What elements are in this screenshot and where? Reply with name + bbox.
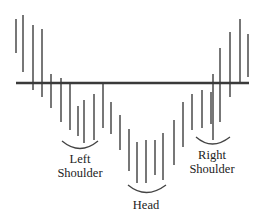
head-label: Head <box>133 198 160 212</box>
head-arc <box>128 185 166 193</box>
head-and-shoulders-diagram: Left Shoulder Head Right Shoulder <box>0 0 263 218</box>
left-shoulder-label-line1: Left <box>70 152 91 166</box>
left-shoulder-arc <box>62 141 98 149</box>
right-shoulder-label-line1: Right <box>198 148 226 162</box>
left-shoulder-label-line2: Shoulder <box>57 166 103 180</box>
right-shoulder-label-line2: Shoulder <box>189 162 235 176</box>
